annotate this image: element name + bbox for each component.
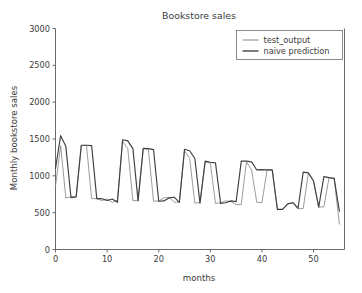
x-tick-label: 40 — [257, 254, 267, 264]
x-tick-label: 20 — [154, 254, 164, 264]
chart-title: Bookstore sales — [162, 10, 236, 21]
legend-label: test_output — [264, 35, 312, 45]
y-tick-label: 2500 — [29, 60, 50, 70]
x-tick-label: 30 — [205, 254, 215, 264]
y-tick-label: 3000 — [29, 24, 50, 34]
y-tick-label: 0 — [45, 245, 50, 255]
chart-canvas: 05001000150020002500300001020304050 test… — [0, 0, 362, 293]
x-tick-label: 50 — [308, 254, 318, 264]
y-tick-label: 500 — [34, 208, 50, 218]
y-tick-label: 1500 — [29, 134, 50, 144]
chart-figure: 05001000150020002500300001020304050 test… — [0, 0, 362, 293]
y-tick-label: 2000 — [29, 97, 50, 107]
legend-label: naive prediction — [264, 46, 330, 56]
y-axis-title: Monthly bookstore sales — [9, 85, 19, 190]
x-tick-label: 10 — [102, 254, 112, 264]
x-tick-label: 0 — [53, 254, 58, 264]
y-tick-label: 1000 — [29, 171, 50, 181]
x-axis-title: months — [183, 273, 216, 283]
chart-legend: test_outputnaive prediction — [237, 31, 343, 60]
